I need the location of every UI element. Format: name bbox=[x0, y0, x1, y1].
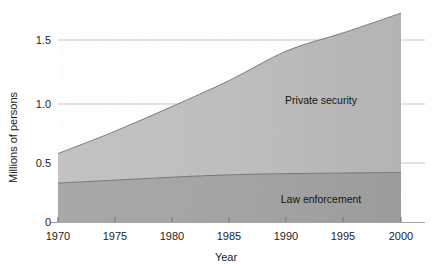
series-areas bbox=[58, 0, 401, 222]
x-tick-label-1985: 1985 bbox=[217, 230, 241, 242]
paper-grain bbox=[58, 0, 401, 222]
y-tick-label-0: 0 bbox=[45, 216, 51, 228]
stacked-area-chart: 1970 1975 1980 1985 1990 1995 2000 0 0.5… bbox=[0, 0, 433, 272]
x-tick-label-1970: 1970 bbox=[46, 230, 70, 242]
x-tick-label-2000: 2000 bbox=[389, 230, 413, 242]
chart-canvas: 1970 1975 1980 1985 1990 1995 2000 0 0.5… bbox=[0, 0, 433, 272]
y-tick-label-0.5: 0.5 bbox=[36, 157, 51, 169]
series-annotation-law-enforcement: Law enforcement bbox=[281, 193, 362, 205]
y-tick-label-1.5: 1.5 bbox=[36, 34, 51, 46]
y-axis-title: Millions of persons bbox=[7, 91, 19, 183]
x-axis-title: Year bbox=[215, 251, 238, 263]
x-tick-label-1980: 1980 bbox=[160, 230, 184, 242]
y-tick-label-1.0: 1.0 bbox=[36, 98, 51, 110]
x-tick-label-1995: 1995 bbox=[331, 230, 355, 242]
x-tick-label-1990: 1990 bbox=[274, 230, 298, 242]
x-tick-label-1975: 1975 bbox=[103, 230, 127, 242]
series-annotation-private-security: Private security bbox=[285, 94, 358, 106]
